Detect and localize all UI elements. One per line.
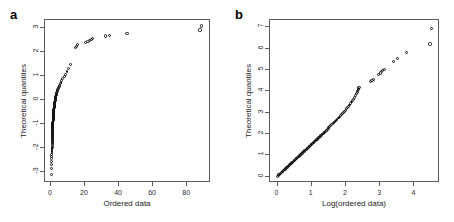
x-axis-tick xyxy=(311,182,312,186)
data-point xyxy=(64,73,67,76)
y-axis-tick xyxy=(265,90,269,91)
x-axis-tick xyxy=(152,182,153,186)
panel-b-plot-box xyxy=(269,19,439,182)
panel-b-ylabel: Theoretical quantiles xyxy=(245,41,253,161)
panel-b-plot-area xyxy=(270,20,438,181)
y-axis-tick-label: 2 xyxy=(257,124,264,140)
x-axis-tick-label: 40 xyxy=(114,189,122,196)
x-axis-tick-label: 80 xyxy=(182,189,190,196)
data-point xyxy=(50,163,53,166)
panel-a-plot-box xyxy=(44,19,210,182)
y-axis-tick-label: 2 xyxy=(32,43,39,59)
y-axis-tick-label: -3 xyxy=(32,163,39,179)
data-point xyxy=(383,68,386,71)
x-axis-tick xyxy=(118,182,119,186)
y-axis-tick-label: -2 xyxy=(32,139,39,155)
data-point xyxy=(430,27,433,30)
y-axis-tick xyxy=(265,26,269,27)
x-axis-tick xyxy=(50,182,51,186)
x-axis-tick xyxy=(345,182,346,186)
data-point xyxy=(428,42,431,45)
data-point xyxy=(50,160,53,163)
data-point xyxy=(67,67,70,70)
y-axis-tick-label: 7 xyxy=(257,18,264,34)
panel-a-plot-area xyxy=(45,20,209,181)
panel-b: b 0123401234567 Log(ordered data) Theore… xyxy=(227,0,454,222)
data-point xyxy=(198,28,201,31)
y-axis-tick xyxy=(40,27,44,28)
data-point xyxy=(200,24,203,27)
y-axis-tick xyxy=(265,69,269,70)
panel-a-ylabel: Theoretical quantiles xyxy=(20,41,28,161)
x-axis-tick-label: 2 xyxy=(343,189,347,196)
data-point xyxy=(392,60,395,63)
x-axis-tick-label: 3 xyxy=(377,189,381,196)
panel-a-letter: a xyxy=(10,8,17,21)
x-axis-tick xyxy=(413,182,414,186)
x-axis-tick-label: 0 xyxy=(275,189,279,196)
y-axis-tick-label: 5 xyxy=(257,61,264,77)
data-point xyxy=(357,86,360,89)
y-axis-tick xyxy=(265,112,269,113)
data-point xyxy=(104,34,107,37)
data-point xyxy=(76,43,79,46)
y-axis-tick xyxy=(40,171,44,172)
x-axis-tick-label: 20 xyxy=(80,189,88,196)
x-axis-tick xyxy=(277,182,278,186)
data-point xyxy=(50,167,53,170)
x-axis-tick xyxy=(84,182,85,186)
figure-container: a 020406080-3-2-10123 Ordered data Theor… xyxy=(0,0,454,222)
data-point xyxy=(50,173,53,176)
x-axis-tick-label: 1 xyxy=(309,189,313,196)
x-axis-tick-label: 0 xyxy=(48,189,52,196)
y-axis-tick xyxy=(40,99,44,100)
y-axis-tick-label: 1 xyxy=(32,67,39,83)
y-axis-tick xyxy=(40,147,44,148)
data-point xyxy=(69,63,72,66)
panel-b-xlabel: Log(ordered data) xyxy=(322,200,386,208)
panel-b-letter: b xyxy=(235,8,243,21)
x-axis-tick xyxy=(186,182,187,186)
panel-a-xlabel: Ordered data xyxy=(103,200,150,208)
panel-a: a 020406080-3-2-10123 Ordered data Theor… xyxy=(0,0,227,222)
x-axis-tick xyxy=(379,182,380,186)
y-axis-tick xyxy=(40,51,44,52)
y-axis-tick xyxy=(40,75,44,76)
y-axis-tick xyxy=(265,133,269,134)
data-point xyxy=(405,51,408,54)
y-axis-tick-label: 6 xyxy=(257,39,264,55)
y-axis-tick xyxy=(265,48,269,49)
y-axis-tick-label: 3 xyxy=(257,103,264,119)
y-axis-tick xyxy=(265,154,269,155)
y-axis-tick xyxy=(265,176,269,177)
y-axis-tick-label: 1 xyxy=(257,146,264,162)
x-axis-tick-label: 4 xyxy=(411,189,415,196)
data-point xyxy=(91,37,94,40)
y-axis-tick-label: 0 xyxy=(257,167,264,183)
y-axis-tick xyxy=(40,123,44,124)
y-axis-tick-label: -1 xyxy=(32,115,39,131)
y-axis-tick-label: 3 xyxy=(32,19,39,35)
y-axis-tick-label: 0 xyxy=(32,91,39,107)
data-point xyxy=(125,32,128,35)
x-axis-tick-label: 60 xyxy=(148,189,156,196)
data-point xyxy=(108,34,111,37)
y-axis-tick-label: 4 xyxy=(257,82,264,98)
data-point xyxy=(396,57,399,60)
data-point xyxy=(372,78,375,81)
data-point xyxy=(66,70,69,73)
